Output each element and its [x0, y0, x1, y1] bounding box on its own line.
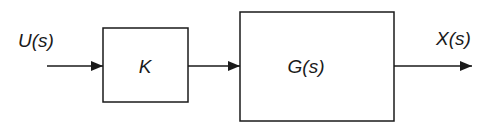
output-label: X(s) [435, 28, 471, 49]
block-diagram: U(s) K G(s) X(s) [0, 0, 495, 131]
input-label: U(s) [18, 30, 54, 51]
plant-block-label: G(s) [288, 56, 325, 77]
gain-block-label: K [139, 56, 153, 77]
